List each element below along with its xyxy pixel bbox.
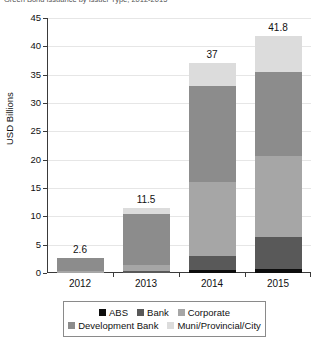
y-tick-mark	[43, 46, 47, 47]
plot-area: 051015202530354045 2.611.53741.8 2012201…	[47, 18, 311, 273]
y-tick-mark	[43, 103, 47, 104]
legend-label: Corporate	[188, 308, 230, 318]
y-tick-label: 40	[30, 42, 41, 52]
y-tick-mark	[43, 188, 47, 189]
bar-segment[interactable]	[57, 258, 104, 271]
bar-segment[interactable]	[255, 72, 302, 156]
bar-segment[interactable]	[189, 270, 236, 273]
y-tick-label: 20	[30, 155, 41, 165]
bar-segment[interactable]	[123, 214, 170, 265]
legend-swatch-icon	[68, 322, 75, 329]
legend-swatch-icon	[178, 309, 185, 316]
gridline	[48, 18, 311, 19]
legend-entry[interactable]: Bank	[137, 308, 169, 318]
y-tick-mark	[43, 160, 47, 161]
legend-label: ABS	[109, 308, 128, 318]
bar-group[interactable]: 11.5	[123, 208, 170, 273]
y-tick-mark	[43, 273, 47, 274]
legend-entry[interactable]: ABS	[99, 308, 128, 318]
y-tick-label: 5	[36, 240, 41, 250]
y-tick-label: 30	[30, 98, 41, 108]
legend-label: Muni/Provincial/City	[177, 321, 260, 331]
chart-title: Green Bond Issuance by Issuer Type, 2012…	[4, 0, 324, 5]
x-tick-label: 2013	[123, 279, 170, 289]
bar-total-label: 11.5	[123, 195, 170, 205]
bar-segment[interactable]	[189, 256, 236, 270]
y-tick-mark	[43, 131, 47, 132]
y-tick-label: 45	[30, 13, 41, 23]
x-tick-label: 2014	[189, 279, 236, 289]
bar-group[interactable]: 41.8	[255, 36, 302, 273]
bar-segment[interactable]	[255, 156, 302, 237]
chart-legend: ABSBankCorporateDevelopment BankMuni/Pro…	[63, 301, 266, 337]
y-tick-label: 35	[30, 70, 41, 80]
x-tick-mark	[113, 273, 114, 277]
bar-total-label: 37	[189, 50, 236, 60]
y-tick-label: 25	[30, 127, 41, 137]
y-tick-label: 0	[36, 268, 41, 278]
y-tick-label: 10	[30, 212, 41, 222]
y-tick-mark	[43, 216, 47, 217]
x-tick-label: 2015	[255, 279, 302, 289]
bar-group[interactable]: 2.6	[57, 258, 104, 273]
legend-row: Development BankMuni/Provincial/City	[66, 319, 263, 332]
legend-entry[interactable]: Corporate	[178, 308, 230, 318]
bar-segment[interactable]	[189, 63, 236, 86]
legend-swatch-icon	[137, 309, 144, 316]
legend-entry[interactable]: Development Bank	[68, 321, 158, 331]
bar-segment[interactable]	[123, 265, 170, 272]
bar-total-label: 41.8	[255, 23, 302, 33]
legend-swatch-icon	[167, 322, 174, 329]
y-tick-mark	[43, 245, 47, 246]
bar-segment[interactable]	[255, 269, 302, 273]
y-axis-line	[47, 18, 48, 273]
legend-label: Development Bank	[78, 321, 158, 331]
legend-swatch-icon	[99, 309, 106, 316]
legend-entry[interactable]: Muni/Provincial/City	[167, 321, 260, 331]
bar-group[interactable]: 37	[189, 63, 236, 273]
x-tick-mark	[179, 273, 180, 277]
y-tick-mark	[43, 75, 47, 76]
y-axis-title: USD Billions	[4, 92, 15, 145]
bar-total-label: 2.6	[57, 245, 104, 255]
bar-segment[interactable]	[255, 36, 302, 72]
chart-figure: Green Bond Issuance by Issuer Type, 2012…	[0, 0, 329, 344]
x-tick-mark	[310, 273, 311, 277]
bar-segment[interactable]	[123, 271, 170, 273]
x-tick-mark	[245, 273, 246, 277]
bar-segment[interactable]	[189, 86, 236, 182]
bar-segment[interactable]	[57, 271, 104, 273]
legend-row: ABSBankCorporate	[66, 306, 263, 319]
bar-segment[interactable]	[255, 237, 302, 269]
bar-segment[interactable]	[189, 182, 236, 256]
y-tick-label: 15	[30, 183, 41, 193]
legend-label: Bank	[147, 308, 169, 318]
x-tick-label: 2012	[57, 279, 104, 289]
y-tick-mark	[43, 18, 47, 19]
